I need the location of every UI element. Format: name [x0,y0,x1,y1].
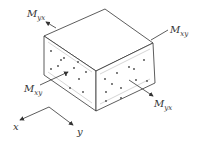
x-axis-arrow [20,107,49,120]
myx-top-arrow [46,22,56,28]
x-axis-label: x [13,121,19,132]
label-myx-bottom: Myx [153,98,172,112]
y-axis-label: y [76,126,83,137]
mxy-right-leader [151,30,168,40]
label-mxy-right: Mxy [169,24,189,38]
coordinate-axes [20,107,73,125]
y-axis-arrow [49,107,73,125]
plate-element-diagram: Myx Mxy Mxy Myx x y [0,0,200,149]
label-myx-top: Myx [26,8,45,22]
